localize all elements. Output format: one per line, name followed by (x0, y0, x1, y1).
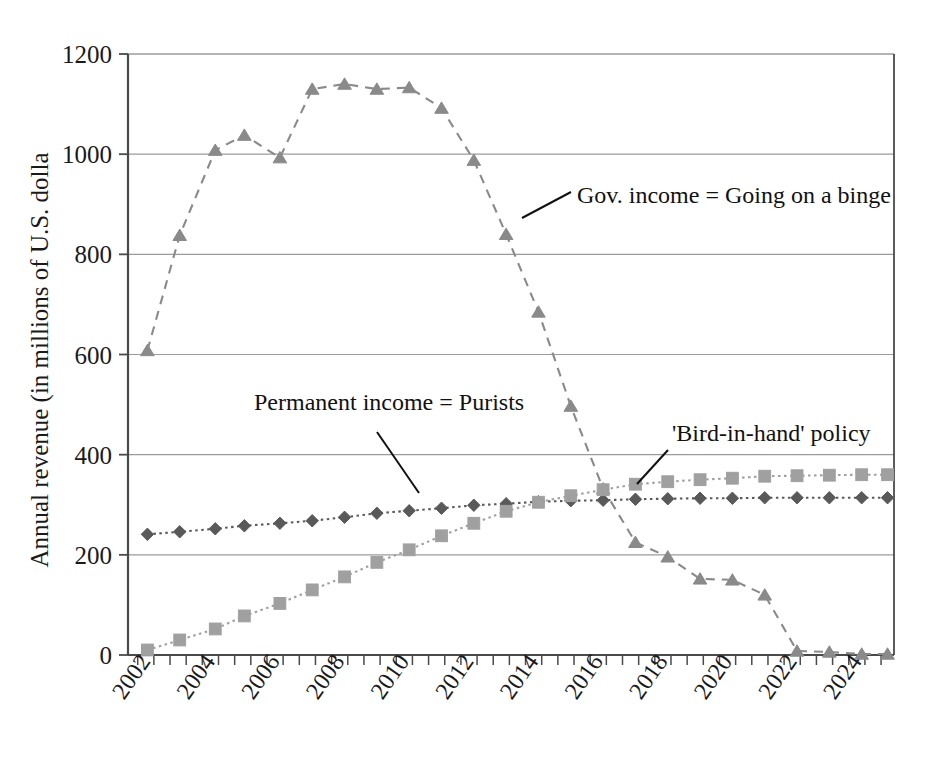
data-marker-square (274, 598, 286, 610)
annotation-label: 'Bird-in-hand' policy (672, 420, 871, 446)
y-tick-label-400: 400 (75, 442, 113, 469)
data-marker-square (565, 490, 577, 502)
data-marker-square (726, 472, 738, 484)
data-marker-square (823, 469, 835, 481)
data-marker-square (759, 470, 771, 482)
y-axis-label: Annual revenue (in millions of U.S. doll… (26, 152, 54, 567)
data-marker-square (174, 634, 186, 646)
data-marker-square (238, 610, 250, 622)
chart-container: 020040060080010001200 200220042006200820… (0, 0, 931, 772)
data-marker-square (436, 530, 448, 542)
data-marker-square (882, 469, 894, 481)
data-marker-square (694, 474, 706, 486)
y-tick-label-600: 600 (75, 342, 113, 369)
data-marker-square (597, 484, 609, 496)
data-marker-square (339, 571, 351, 583)
y-tick-label-1000: 1000 (62, 141, 112, 168)
data-marker-square (533, 496, 545, 508)
annotation-label: Gov. income = Going on a binge (577, 182, 891, 208)
data-marker-square (141, 644, 153, 656)
data-marker-square (791, 470, 803, 482)
y-axis-title: Annual revenue (in millions of U.S. doll… (26, 152, 54, 567)
data-marker-square (209, 623, 221, 635)
data-marker-square (403, 544, 415, 556)
annotation-label: Permanent income = Purists (254, 389, 524, 415)
y-tick-label-1200: 1200 (62, 41, 112, 68)
y-tick-label-800: 800 (75, 241, 113, 268)
y-tick-label-200: 200 (75, 542, 113, 569)
data-marker-square (662, 476, 674, 488)
y-tick-label-0: 0 (100, 642, 113, 669)
data-marker-square (371, 556, 383, 568)
data-marker-square (468, 517, 480, 529)
revenue-line-chart: 020040060080010001200 200220042006200820… (0, 0, 931, 772)
data-marker-square (856, 469, 868, 481)
data-marker-square (306, 584, 318, 596)
data-marker-square (500, 505, 512, 517)
